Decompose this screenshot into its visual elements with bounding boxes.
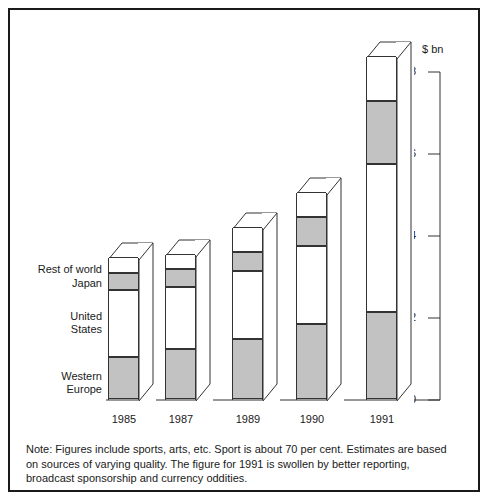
x-category-label-1987: 1987	[151, 413, 211, 425]
x-category-label-1991: 1991	[352, 413, 412, 425]
segment-japan-1985	[109, 273, 138, 290]
series-label-western-europe-line2: Europe	[16, 383, 102, 396]
segment-western-europe-1990	[297, 324, 326, 399]
segment-rest-of-world-1987	[166, 254, 195, 269]
bar-side-face-1990	[326, 178, 344, 405]
segment-western-europe-1985	[109, 357, 138, 399]
series-label-united-states-line1: United	[16, 310, 102, 323]
series-label-japan: Japan	[16, 277, 102, 290]
segment-rest-of-world-1989	[233, 227, 262, 252]
x-category-label-1990: 1990	[282, 413, 342, 425]
segment-japan-1991	[367, 101, 396, 164]
bar-side-face-1989	[262, 213, 280, 405]
segment-rest-of-world-1991	[367, 56, 396, 101]
segment-rest-of-world-1985	[109, 257, 138, 273]
chart-note: Note: Figures include sports, arts, etc.…	[26, 442, 460, 486]
series-label-united-states-line2: States	[16, 323, 102, 336]
x-category-label-1989: 1989	[218, 413, 278, 425]
segment-united-states-1985	[109, 290, 138, 357]
segment-japan-1989	[233, 252, 262, 271]
bar-side-face-1985	[138, 243, 156, 403]
segment-united-states-1987	[166, 287, 195, 349]
plot-area: 8 6 4 2 0 $ bn	[10, 10, 478, 430]
segment-japan-1987	[166, 269, 195, 287]
bar-front-face-1991	[366, 57, 397, 400]
segment-rest-of-world-1990	[297, 192, 326, 217]
y-axis-unit-label: $ bn	[422, 43, 443, 55]
bar-side-face-1991	[396, 42, 414, 405]
series-label-rest-of-world: Rest of world	[16, 263, 102, 276]
x-category-label-1985: 1985	[94, 413, 154, 425]
series-label-western-europe-line1: Western	[16, 370, 102, 383]
segment-united-states-1989	[233, 271, 262, 339]
chart-figure-frame: 8 6 4 2 0 $ bn	[8, 8, 480, 492]
bar-front-face-1989	[232, 228, 263, 400]
segment-western-europe-1987	[166, 349, 195, 399]
segment-western-europe-1989	[233, 339, 262, 399]
bar-front-face-1987	[165, 255, 196, 400]
bar-front-face-1990	[296, 193, 327, 400]
bar-front-face-1985	[108, 258, 139, 400]
bar-side-face-1987	[195, 240, 213, 404]
segment-japan-1990	[297, 217, 326, 246]
segment-united-states-1991	[367, 164, 396, 312]
segment-united-states-1990	[297, 246, 326, 324]
segment-western-europe-1991	[367, 312, 396, 399]
